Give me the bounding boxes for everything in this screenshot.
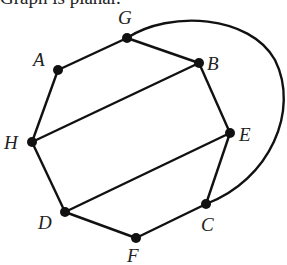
node-label-F: F — [126, 245, 139, 265]
planar-graph-diagram: GABHEDCF — [0, 0, 287, 265]
edge-H-D — [32, 142, 65, 212]
node-C — [201, 199, 211, 209]
node-F — [131, 233, 141, 243]
edge-G-C-arc — [127, 21, 284, 204]
node-label-G: G — [118, 7, 132, 28]
node-label-C: C — [201, 214, 214, 235]
node-G — [122, 33, 132, 43]
node-D — [60, 207, 70, 217]
node-E — [225, 128, 235, 138]
node-B — [194, 58, 204, 68]
edge-F-C — [136, 204, 206, 238]
node-label-E: E — [238, 124, 251, 145]
node-label-D: D — [37, 212, 52, 233]
edge-G-A — [58, 38, 127, 70]
edge-D-F — [65, 212, 136, 238]
edge-G-B — [127, 38, 199, 63]
node-label-A: A — [31, 49, 45, 70]
node-label-B: B — [207, 53, 219, 74]
node-H — [27, 137, 37, 147]
node-A — [53, 65, 63, 75]
node-label-H: H — [3, 132, 19, 153]
